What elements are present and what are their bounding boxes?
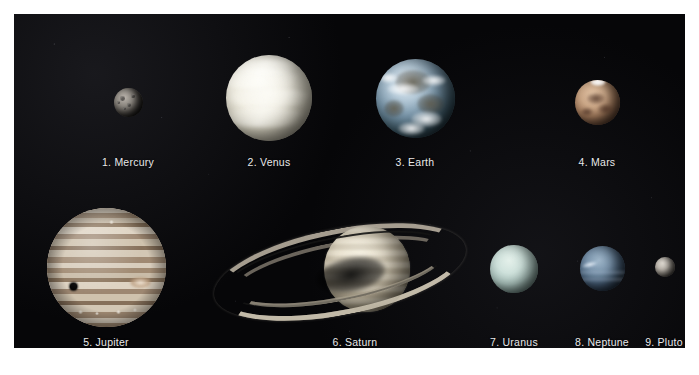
label-uranus: 7. Uranus bbox=[490, 336, 538, 348]
label-earth: 3. Earth bbox=[396, 156, 435, 168]
planet-jupiter bbox=[47, 208, 166, 327]
planet-mars bbox=[575, 80, 620, 125]
label-mars: 4. Mars bbox=[579, 156, 616, 168]
solar-system-figure: 1. Mercury 2. Venus 3. Earth bbox=[0, 0, 699, 375]
label-pluto: 9. Pluto bbox=[645, 336, 683, 348]
planet-neptune bbox=[580, 246, 625, 291]
planet-earth bbox=[376, 59, 455, 138]
planet-venus bbox=[226, 55, 312, 141]
label-neptune: 8. Neptune bbox=[575, 336, 629, 348]
planet-saturn bbox=[212, 212, 460, 328]
planet-mercury bbox=[114, 88, 143, 117]
planet-uranus bbox=[490, 245, 538, 293]
label-jupiter: 5. Jupiter bbox=[83, 336, 129, 348]
planet-pluto bbox=[655, 257, 675, 277]
label-saturn: 6. Saturn bbox=[333, 336, 378, 348]
label-mercury: 1. Mercury bbox=[102, 156, 154, 168]
label-venus: 2. Venus bbox=[248, 156, 291, 168]
space-panel: 1. Mercury 2. Venus 3. Earth bbox=[14, 14, 685, 348]
